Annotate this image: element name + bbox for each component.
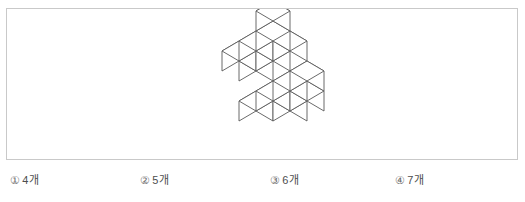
option-2-label: 5개 — [152, 174, 169, 186]
option-2-marker: ② — [140, 174, 150, 186]
option-2[interactable]: ②5개 — [140, 172, 169, 188]
option-3[interactable]: ③6개 — [270, 172, 299, 188]
option-4[interactable]: ④7개 — [395, 172, 424, 188]
option-1-marker: ① — [10, 174, 20, 186]
answer-options: ①4개 ②5개 ③6개 ④7개 — [6, 172, 518, 194]
option-4-label: 7개 — [407, 174, 424, 186]
option-4-marker: ④ — [395, 174, 405, 186]
option-1-label: 4개 — [22, 174, 39, 186]
figure-panel — [6, 8, 518, 160]
option-3-label: 6개 — [282, 174, 299, 186]
option-1[interactable]: ①4개 — [10, 172, 39, 188]
question-root: ①4개 ②5개 ③6개 ④7개 — [0, 0, 525, 202]
option-3-marker: ③ — [270, 174, 280, 186]
figure-stage — [7, 9, 517, 159]
isometric-cube-figure — [197, 9, 332, 159]
